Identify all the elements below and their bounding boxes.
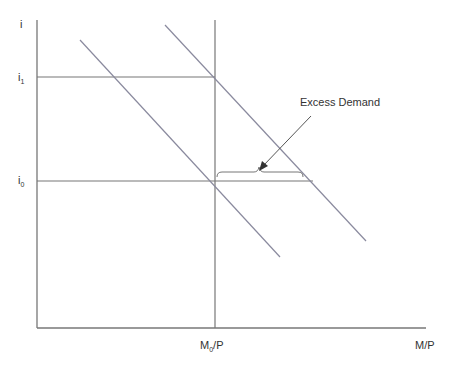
excess-demand-arrow <box>263 116 311 166</box>
tick-label-i0: i0 <box>18 174 24 188</box>
excess-demand-label: Excess Demand <box>300 96 380 108</box>
tick-label-m0-p: M0/P <box>200 339 223 353</box>
tick-label-i1: i1 <box>18 71 24 85</box>
money-market-diagram: i i1 i0 M0/P M/P Excess Demand <box>0 0 455 367</box>
money-demand-curve-initial <box>80 40 280 257</box>
x-axis-label: M/P <box>415 339 435 351</box>
money-demand-curve-shifted <box>165 25 366 241</box>
y-axis-label: i <box>20 18 22 30</box>
